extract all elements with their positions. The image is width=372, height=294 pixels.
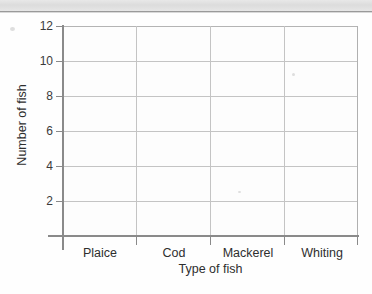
y-tick-mark-10 [56, 61, 63, 62]
x-tick-mark-cod-mackerel [210, 237, 211, 245]
y-axis-line [62, 25, 64, 250]
x-category-label-cod: Cod [137, 245, 211, 261]
y-tick-mark-2 [56, 201, 63, 202]
gridline-x-cod-mackerel [210, 26, 211, 236]
gridline-x-plaice-cod [136, 26, 137, 236]
y-tick-label-2-text: 2 [0, 195, 53, 207]
x-tick-mark-left-edge [63, 237, 64, 245]
scanned-page: 12 10 8 6 4 2 Plaice Cod Mackerel Whitin… [0, 0, 372, 294]
y-tick-mark-4 [56, 166, 63, 167]
y-tick-label-2: 2 [0, 195, 53, 207]
y-tick-mark-12 [56, 26, 63, 27]
y-tick-label-12-text: 12 [0, 20, 53, 32]
y-tick-mark-8 [56, 96, 63, 97]
x-tick-mark-right-edge [357, 237, 358, 245]
x-tick-mark-mackerel-whiting [284, 237, 285, 245]
x-category-label-plaice: Plaice [63, 245, 137, 261]
x-axis-title: Type of fish [63, 262, 358, 276]
y-tick-label-12: 12 [0, 20, 53, 32]
y-axis-title: Number of fish [15, 65, 29, 185]
plot-area [63, 26, 358, 236]
page-top-band [0, 0, 372, 11]
x-tick-mark-plaice-cod [136, 237, 137, 245]
x-axis-line [48, 235, 359, 237]
x-category-label-whiting: Whiting [285, 245, 359, 261]
gridline-x-right-edge [357, 26, 358, 236]
bar-chart-figure: 12 10 8 6 4 2 Plaice Cod Mackerel Whitin… [0, 13, 372, 294]
x-category-label-mackerel: Mackerel [211, 245, 285, 261]
gridline-x-mackerel-whiting [284, 26, 285, 236]
y-tick-mark-6 [56, 131, 63, 132]
